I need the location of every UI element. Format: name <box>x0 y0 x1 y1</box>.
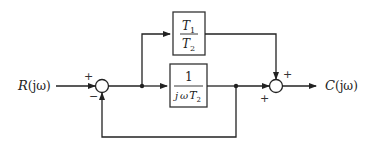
integrator-numerator: 1 <box>185 70 193 84</box>
sum2-left-plus-sign: + <box>260 92 269 105</box>
output-label: C(jω) <box>325 78 358 93</box>
sum2-top-plus-sign: + <box>283 68 292 81</box>
sum1-minus-sign: − <box>89 90 98 103</box>
summing-junction-2 <box>270 80 283 93</box>
feedback-path <box>102 86 236 137</box>
input-label: R(jω) <box>17 78 51 93</box>
sum1-plus-sign: + <box>84 70 93 83</box>
feedforward-path <box>142 34 170 86</box>
block-diagram: R(jω) + − T1 T2 1 jωT2 + + C(jω) <box>0 0 374 145</box>
feedforward-output-path <box>205 34 276 79</box>
